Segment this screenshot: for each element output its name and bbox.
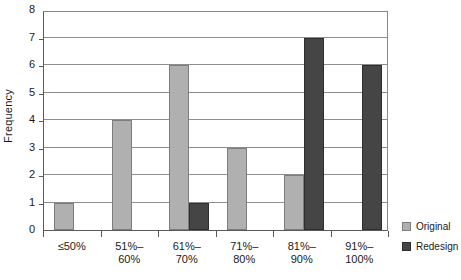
legend-label: Redesign (416, 241, 458, 252)
legend-label: Original (416, 221, 450, 232)
x-axis-tick-mark (388, 231, 389, 237)
x-axis-tick-mark (101, 231, 102, 237)
y-axis-tick-label: 3 (13, 141, 35, 153)
y-axis-tick-label: 0 (13, 223, 35, 235)
x-axis-tick-label: 91%– 100% (331, 240, 389, 266)
bar-redesign (189, 203, 209, 231)
gridline (44, 147, 387, 148)
bar-original (284, 175, 304, 230)
x-axis-tick-label: 51%– 60% (101, 240, 159, 266)
bar-original (169, 65, 189, 230)
y-axis-tick-label: 2 (13, 168, 35, 180)
x-axis-tick-mark (331, 231, 332, 237)
y-axis-tick-label: 1 (13, 196, 35, 208)
bar-original (112, 120, 132, 230)
gridline (44, 174, 387, 175)
legend-item: Original (402, 216, 461, 236)
gridline (44, 37, 387, 38)
x-axis-tick-mark (158, 231, 159, 237)
y-axis-tick-label: 7 (13, 31, 35, 43)
x-axis-tick-mark (43, 231, 44, 237)
legend-item: Redesign (402, 236, 461, 256)
x-axis-tick-label: 61%– 70% (158, 240, 216, 266)
x-axis-tick-label: 71%– 80% (216, 240, 274, 266)
legend: OriginalRedesign (402, 216, 461, 256)
bar-chart-figure: Frequency 012345678 ≤50%51%– 60%61%– 70%… (0, 0, 461, 280)
plot-area (43, 11, 388, 231)
bar-original (54, 203, 74, 231)
y-axis-tick-label: 6 (13, 58, 35, 70)
y-axis-tick-label: 8 (13, 3, 35, 15)
bar-redesign (362, 65, 382, 230)
x-axis-tick-label: ≤50% (43, 240, 101, 253)
y-axis-tick-label: 4 (13, 113, 35, 125)
y-axis-tick-label: 5 (13, 86, 35, 98)
gridline (44, 92, 387, 93)
gridline (44, 64, 387, 65)
x-axis-tick-mark (216, 231, 217, 237)
gridline (44, 202, 387, 203)
x-axis-tick-mark (273, 231, 274, 237)
bar-redesign (304, 38, 324, 231)
bar-original (227, 148, 247, 231)
legend-swatch-redesign (402, 242, 411, 251)
legend-swatch-original (402, 222, 411, 231)
gridline (44, 119, 387, 120)
x-axis-tick-label: 81%– 90% (273, 240, 331, 266)
